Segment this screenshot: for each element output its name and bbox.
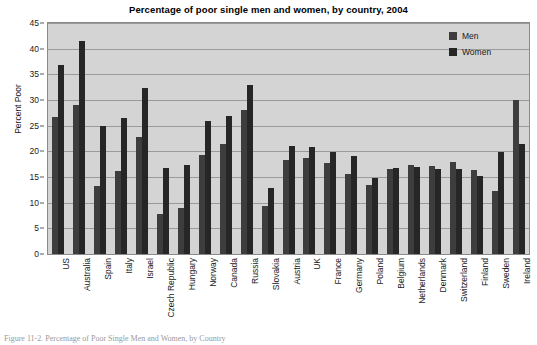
y-axis: 051015202530354045 — [0, 22, 44, 255]
x-tick-label: Netherlands — [417, 258, 427, 304]
bar-group — [136, 23, 148, 254]
bar-women — [309, 147, 315, 254]
bar-women — [163, 168, 169, 254]
bar-women — [456, 169, 462, 254]
bar-women — [498, 152, 504, 254]
bar-women — [351, 156, 357, 254]
y-tick-mark — [40, 74, 44, 75]
bar-women — [393, 168, 399, 254]
legend-swatch-men-icon — [449, 32, 457, 40]
chart-legend: Men Women — [449, 29, 521, 61]
legend-swatch-women-icon — [449, 48, 457, 56]
chart-title: Percentage of poor single men and women,… — [0, 4, 537, 15]
x-tick-label: Ireland — [522, 258, 532, 284]
x-tick-label: Israel — [145, 258, 155, 279]
x-tick-label: France — [333, 258, 343, 284]
bar-women — [330, 152, 336, 254]
bar-women — [289, 146, 295, 254]
bar-women — [268, 188, 274, 254]
x-tick-label: US — [61, 258, 71, 270]
x-tick-label: Germany — [354, 258, 364, 293]
y-tick-mark — [40, 254, 44, 255]
bar-group — [429, 23, 441, 254]
y-tick-label: 45 — [30, 18, 39, 28]
x-tick-label: Spain — [103, 258, 113, 280]
x-tick-label: Norway — [208, 258, 218, 287]
y-tick-label: 35 — [30, 69, 39, 79]
y-tick-label: 10 — [30, 198, 39, 208]
x-tick-label: Canada — [229, 258, 239, 288]
x-tick-label: Italy — [124, 258, 134, 274]
bar-women — [226, 116, 232, 254]
y-tick-mark — [40, 23, 44, 24]
x-tick-label: Finland — [480, 258, 490, 286]
x-tick-label: Austria — [292, 258, 302, 284]
legend-label-men: Men — [462, 31, 479, 41]
bar-group — [73, 23, 85, 254]
x-tick-label: Switzerland — [459, 258, 469, 302]
bar-group — [241, 23, 253, 254]
bar-women — [58, 65, 64, 254]
x-tick-label: Hungary — [187, 258, 197, 290]
x-tick-label: Poland — [375, 258, 385, 284]
bar-group — [283, 23, 295, 254]
y-tick-mark — [40, 202, 44, 203]
bar-women — [247, 85, 253, 254]
x-tick-label: Russia — [250, 258, 260, 284]
bar-group — [94, 23, 106, 254]
x-axis: USAustraliaSpainItalyIsraelCzech Republi… — [47, 256, 530, 342]
bar-group — [220, 23, 232, 254]
bar-women — [519, 144, 525, 254]
bar-group — [178, 23, 190, 254]
y-tick-label: 30 — [30, 95, 39, 105]
bar-group — [366, 23, 378, 254]
y-tick-mark — [40, 48, 44, 49]
y-tick-mark — [40, 125, 44, 126]
x-tick-label: UK — [312, 258, 322, 270]
bar-women — [142, 88, 148, 254]
bar-women — [121, 118, 127, 254]
legend-item-men: Men — [449, 29, 521, 43]
y-tick-label: 25 — [30, 121, 39, 131]
bar-group — [303, 23, 315, 254]
y-tick-mark — [40, 177, 44, 178]
legend-item-women: Women — [449, 45, 521, 59]
bar-group — [115, 23, 127, 254]
bar-group — [345, 23, 357, 254]
bar-women — [184, 165, 190, 254]
bar-women — [205, 121, 211, 254]
bar-women — [79, 41, 85, 254]
bar-group — [387, 23, 399, 254]
x-tick-label: Belgium — [396, 258, 406, 289]
bar-women — [414, 167, 420, 254]
bar-group — [52, 23, 64, 254]
bar-women — [435, 169, 441, 254]
bar-group — [262, 23, 274, 254]
x-tick-label: Denmark — [438, 258, 448, 292]
x-tick-label: Sweden — [501, 258, 511, 289]
legend-label-women: Women — [462, 47, 491, 57]
y-tick-label: 20 — [30, 146, 39, 156]
bar-women — [477, 176, 483, 254]
bar-group — [408, 23, 420, 254]
y-tick-mark — [40, 151, 44, 152]
bar-group — [324, 23, 336, 254]
y-tick-label: 15 — [30, 172, 39, 182]
figure-caption: Figure 11-2. Percentage of Poor Single M… — [4, 334, 404, 343]
y-tick-label: 5 — [34, 223, 39, 233]
bar-women — [372, 178, 378, 254]
chart-figure: Percentage of poor single men and women,… — [0, 0, 537, 345]
x-tick-label: Australia — [82, 258, 92, 291]
y-tick-mark — [40, 100, 44, 101]
y-tick-label: 0 — [34, 249, 39, 259]
x-tick-label: Slovakia — [271, 258, 281, 290]
bar-women — [100, 126, 106, 254]
bar-group — [157, 23, 169, 254]
y-tick-mark — [40, 228, 44, 229]
bar-group — [199, 23, 211, 254]
x-tick-label: Czech Republic — [166, 258, 176, 318]
y-tick-label: 40 — [30, 44, 39, 54]
